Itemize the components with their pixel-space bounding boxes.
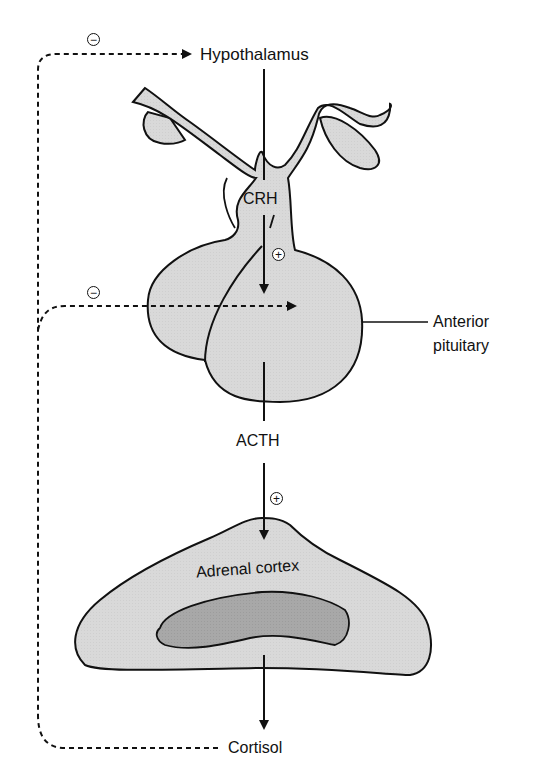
cortisol-label: Cortisol <box>228 739 282 757</box>
hypothalamus-label: Hypothalamus <box>200 46 309 64</box>
inhibit-symbol-pituitary: − <box>87 286 100 299</box>
diagram-graphics <box>0 0 533 775</box>
hpa-axis-diagram: Hypothalamus CRH Anterior pituitary ACTH… <box>0 0 533 775</box>
stimulate-symbol-crh: + <box>272 248 285 261</box>
anterior-pituitary-label-line1: Anterior <box>433 313 489 331</box>
crh-label: CRH <box>243 190 278 208</box>
inhibit-symbol-hypothalamus: − <box>87 33 100 46</box>
stimulate-symbol-acth: + <box>270 492 283 505</box>
acth-label: ACTH <box>236 432 280 450</box>
anterior-pituitary-label-line2: pituitary <box>433 337 489 355</box>
hypothalamus-shape <box>133 88 391 402</box>
